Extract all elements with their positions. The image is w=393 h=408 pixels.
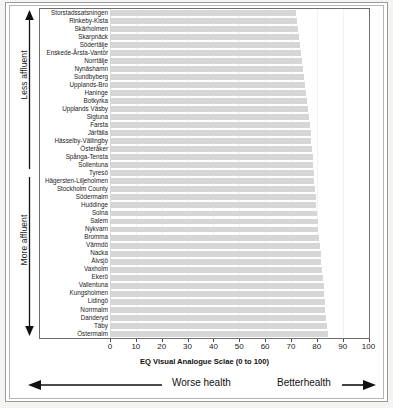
bar: [110, 18, 297, 24]
category-label: Södertälje: [8, 42, 108, 48]
bar: [110, 291, 324, 297]
category-label: Sundbyberg: [8, 74, 108, 80]
category-label: Vallentuna: [8, 282, 108, 288]
bar: [110, 307, 325, 313]
bar: [110, 227, 318, 233]
category-label: Östermalm: [8, 331, 108, 337]
gridline: [343, 9, 344, 338]
category-label: Norrmalm: [8, 307, 108, 313]
bar: [110, 331, 328, 337]
category-label: Skarpnäck: [8, 34, 108, 40]
bar: [110, 323, 327, 329]
chart-page: Less affluent More affluent Storstadssat…: [0, 0, 393, 408]
category-label: Sigtuna: [8, 114, 108, 120]
bar: [110, 58, 302, 64]
bar: [110, 146, 312, 152]
category-label: Enskede-Årsta-Vantör: [8, 50, 108, 56]
bar: [110, 98, 307, 104]
better-health-label: Betterhealth: [277, 377, 331, 388]
category-label: Botkyrka: [8, 98, 108, 104]
bars-region: [110, 9, 369, 338]
bar: [110, 219, 318, 225]
bar: [110, 243, 320, 249]
bar: [110, 50, 301, 56]
bar: [110, 251, 321, 257]
bar: [110, 138, 311, 144]
bar: [110, 114, 309, 120]
bar: [110, 178, 314, 184]
category-label: Skärholmen: [8, 26, 108, 32]
bar: [110, 211, 317, 217]
bar: [110, 202, 316, 208]
category-label: Södermalm: [8, 194, 108, 200]
bar: [110, 26, 298, 32]
category-label: Upplands-Bro: [8, 82, 108, 88]
bar: [110, 162, 313, 168]
bar: [110, 299, 325, 305]
category-label: Täby: [8, 323, 108, 329]
category-label: Kungsholmen: [8, 290, 108, 296]
bar: [110, 82, 305, 88]
x-axis: 0102030405060708090100: [39, 339, 370, 355]
category-label-column: StorstadssatsningenRinkeby-KistaSkärholm…: [40, 9, 110, 338]
category-label: Vaxholm: [8, 266, 108, 272]
bar: [110, 154, 313, 160]
category-label: Spånga-Tensta: [8, 154, 108, 160]
gridline: [317, 9, 318, 338]
bar: [110, 106, 308, 112]
category-label: Huddinge: [8, 202, 108, 208]
category-label: Nacka: [8, 250, 108, 256]
bar: [110, 235, 319, 241]
bar: [110, 315, 326, 321]
category-label: Hägersten-Liljeholmen: [8, 178, 108, 184]
x-tick-label: 100: [354, 342, 384, 351]
worse-health-label: Worse health: [172, 377, 231, 388]
category-label: Lidingö: [8, 298, 108, 304]
category-label: Farsta: [8, 122, 108, 128]
health-direction-bar: Worse health Betterhealth: [20, 375, 378, 395]
bar: [110, 66, 303, 72]
category-label: Sollentuna: [8, 162, 108, 168]
category-label: Solna: [8, 210, 108, 216]
category-label: Storstadssatsningen: [8, 10, 108, 16]
category-label: Danderyd: [8, 315, 108, 321]
category-label: Nykvarn: [8, 226, 108, 232]
bar: [110, 275, 323, 281]
bar: [110, 267, 322, 273]
bar: [110, 170, 314, 176]
category-label: Hässelby-Vällingby: [8, 138, 108, 144]
bar: [110, 194, 316, 200]
bar: [110, 259, 321, 265]
x-axis-title: EQ Visual Analogue Sclae (0 to 100): [39, 357, 370, 366]
category-label: Ekerö: [8, 274, 108, 280]
bar: [110, 90, 306, 96]
category-label: Värmdö: [8, 242, 108, 248]
bar: [110, 42, 300, 48]
bar: [110, 10, 296, 16]
category-label: Salem: [8, 218, 108, 224]
category-label: Österåker: [8, 146, 108, 152]
category-label: Rinkeby-Kista: [8, 18, 108, 24]
category-label: Haninge: [8, 90, 108, 96]
category-label: Järfälla: [8, 130, 108, 136]
bar: [110, 74, 304, 80]
category-label: Stockholm County: [8, 186, 108, 192]
category-label: Bromma: [8, 234, 108, 240]
better-health-arrow-icon: [342, 380, 376, 390]
category-label: Norrtälje: [8, 58, 108, 64]
bar: [110, 130, 311, 136]
gridline: [369, 9, 370, 338]
worse-health-arrow-icon: [28, 380, 162, 390]
bar: [110, 34, 299, 40]
bar: [110, 186, 315, 192]
bar: [110, 283, 324, 289]
category-label: Upplands Väsby: [8, 106, 108, 112]
bar: [110, 122, 310, 128]
category-label: Tyresö: [8, 170, 108, 176]
category-label: Nynäshamn: [8, 66, 108, 72]
category-label: Älvsjö: [8, 258, 108, 264]
